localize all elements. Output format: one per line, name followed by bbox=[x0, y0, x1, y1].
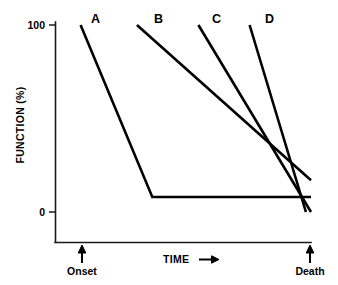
time-arrow-head bbox=[212, 256, 220, 263]
death-label: Death bbox=[295, 265, 324, 277]
series-line-c bbox=[198, 25, 311, 212]
series-line-b bbox=[137, 25, 311, 180]
time-direction-arrow-icon bbox=[199, 256, 219, 263]
series-label-c: C bbox=[212, 12, 221, 26]
function-time-line-chart: 100 0 FUNCTION (%) A B C D Onset Death bbox=[0, 0, 338, 285]
series-label-b: B bbox=[154, 12, 163, 26]
onset-arrow-head bbox=[78, 245, 86, 253]
series-label-d: D bbox=[265, 12, 274, 26]
y-tick-label-100: 100 bbox=[27, 19, 45, 31]
y-axis-title: FUNCTION (%) bbox=[14, 86, 26, 163]
x-axis-title: TIME bbox=[163, 253, 189, 265]
onset-marker bbox=[78, 245, 86, 263]
series-line-d bbox=[250, 25, 306, 212]
onset-label: Onset bbox=[67, 265, 97, 277]
death-marker bbox=[306, 245, 314, 263]
axis-group bbox=[49, 22, 311, 243]
chart-figure: 100 0 FUNCTION (%) A B C D Onset Death bbox=[0, 0, 338, 285]
death-arrow-head bbox=[306, 245, 314, 253]
series-label-a: A bbox=[91, 12, 100, 26]
y-tick-label-0: 0 bbox=[39, 206, 45, 218]
